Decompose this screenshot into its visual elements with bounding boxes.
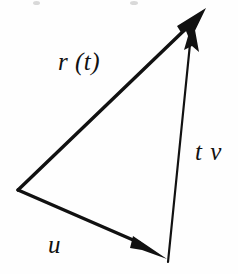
vector-u-shaft xyxy=(18,190,140,243)
scan-artifact-speck xyxy=(130,1,138,5)
vector-label-r-of-t: r (t) xyxy=(58,49,100,74)
vector-diagram-figure: r (t) t v u xyxy=(0,0,238,274)
vector-label-t-v: t v xyxy=(195,139,222,164)
vector-diagram-canvas xyxy=(0,0,238,274)
vector-t-v-shaft xyxy=(168,44,190,262)
vector-label-u: u xyxy=(48,232,61,257)
vector-r-of-t-shaft xyxy=(18,19,196,190)
vector-u-arrowhead xyxy=(130,236,167,259)
scan-artifact-speck xyxy=(33,1,40,5)
vector-u xyxy=(18,190,167,259)
